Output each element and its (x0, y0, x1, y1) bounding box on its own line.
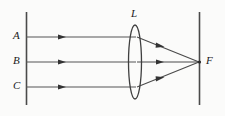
refracted-ray-c-line (137, 62, 199, 87)
focal-point-label: F (206, 55, 213, 66)
focal-point-marker (198, 60, 201, 63)
lens-label: L (131, 8, 137, 19)
incident-ray-c-arrowhead (58, 84, 66, 89)
ray-a-label: A (13, 30, 20, 41)
incident-ray-a-arrowhead (58, 34, 66, 39)
ray-diagram-canvas (0, 0, 225, 116)
ray-c-label: C (13, 80, 20, 91)
incident-ray-b-arrowhead (58, 59, 66, 64)
refracted-ray-a-line (137, 37, 199, 62)
ray-diagram-figure: A B C L F (0, 0, 225, 116)
ray-b-label: B (13, 55, 20, 66)
refracted-ray-b-arrowhead (156, 59, 164, 64)
